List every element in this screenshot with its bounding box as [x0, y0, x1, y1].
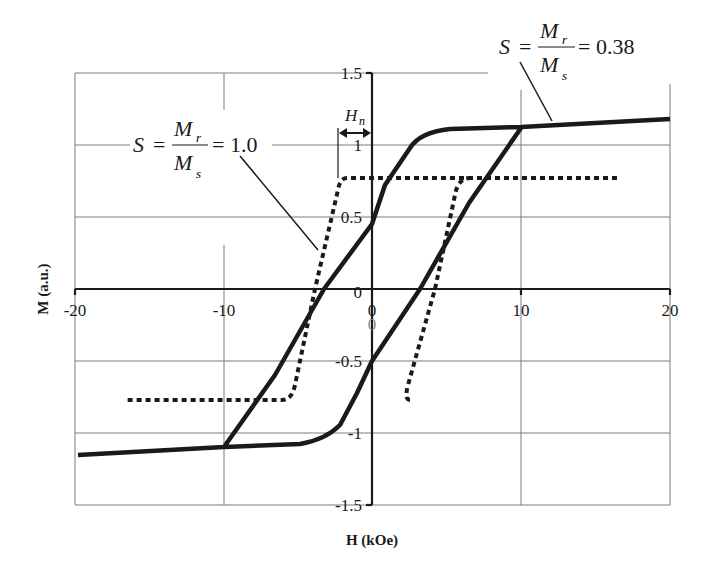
svg-text:= 1.0: = 1.0 [212, 132, 257, 157]
y-axis-title: M (a.u.) [35, 263, 52, 314]
svg-text:H: H [344, 106, 359, 125]
svg-text:M: M [173, 116, 194, 141]
svg-text:= 0.38: = 0.38 [578, 34, 634, 59]
svg-text:-20: -20 [64, 301, 87, 320]
arrow-right-icon [363, 128, 371, 138]
svg-text:S: S [133, 132, 144, 157]
svg-text:s: s [562, 68, 567, 83]
svg-text:s: s [196, 166, 201, 181]
svg-text:-1.5: -1.5 [335, 496, 362, 515]
leader-line-s1 [240, 156, 318, 250]
arrow-left-icon [339, 128, 347, 138]
svg-text:=: = [519, 34, 531, 59]
hysteresis-chart: 1.5 1 0.5 0 -0.5 -1 -1.5 -20 -10 0 10 20… [0, 0, 706, 575]
svg-text:20: 20 [662, 301, 679, 320]
annotation-s1: S = M r M s = 1.0 [130, 115, 318, 250]
svg-text:M: M [539, 52, 560, 77]
svg-text:n: n [359, 114, 365, 128]
svg-text:=: = [153, 132, 165, 157]
svg-text:-10: -10 [213, 301, 236, 320]
origin-zero-faint: 0 [368, 315, 377, 334]
svg-text:10: 10 [513, 301, 530, 320]
annotation-s038: S = M r M s = 0.38 [488, 12, 703, 121]
svg-text:1.5: 1.5 [341, 64, 362, 83]
svg-text:M: M [539, 18, 560, 43]
svg-text:0: 0 [354, 283, 363, 302]
svg-text:1: 1 [354, 136, 363, 155]
svg-text:-1: -1 [348, 424, 362, 443]
svg-text:S: S [499, 34, 510, 59]
svg-text:0.5: 0.5 [341, 208, 362, 227]
x-axis-title: H (kOe) [346, 532, 398, 549]
svg-text:-0.5: -0.5 [335, 352, 362, 371]
svg-text:M: M [173, 150, 194, 175]
